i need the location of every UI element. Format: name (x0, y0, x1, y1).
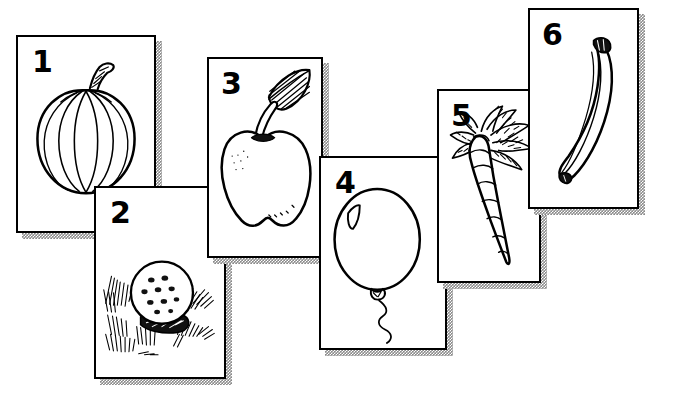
picture-card-5[interactable]: 5 (437, 89, 541, 283)
worksheet-canvas: 1 (0, 0, 689, 409)
carrot-icon (439, 91, 539, 281)
picture-card-6[interactable]: 6 (528, 8, 639, 209)
banana-icon (530, 10, 637, 207)
golf-ball-icon (96, 188, 224, 377)
balloon-icon (321, 158, 445, 348)
apple-icon (209, 59, 321, 256)
picture-card-3[interactable]: 3 (207, 57, 323, 258)
picture-card-4[interactable]: 4 (319, 156, 447, 350)
